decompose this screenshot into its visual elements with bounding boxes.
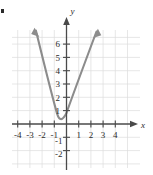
y-axis-label: y xyxy=(70,6,75,16)
y-tick-label: 6 xyxy=(56,39,61,49)
x-tick-label: -3 xyxy=(26,130,34,140)
graph-canvas: -4 -3 -2 -1 1 2 3 4 6 5 4 3 2 1 -1 -2 x … xyxy=(0,0,153,175)
grid-lines xyxy=(12,30,140,168)
x-axis-arrowhead xyxy=(130,121,138,128)
curve-left-arrowhead xyxy=(31,28,39,37)
x-tick-label: 3 xyxy=(101,130,106,140)
x-tick-label: -2 xyxy=(38,130,46,140)
y-tick-label: 3 xyxy=(56,79,61,89)
y-tick-label: 5 xyxy=(56,53,61,63)
y-tick-label: -2 xyxy=(55,149,63,159)
figure-container: -4 -3 -2 -1 1 2 3 4 6 5 4 3 2 1 -1 -2 x … xyxy=(0,0,153,175)
x-tick-label: -4 xyxy=(14,130,22,140)
y-axis-arrowhead xyxy=(63,17,70,25)
bullet-mark-icon xyxy=(1,9,4,13)
y-tick-label: 4 xyxy=(56,66,61,76)
y-tick-label: 1 xyxy=(56,106,61,116)
x-tick-label: 1 xyxy=(76,130,81,140)
y-tick-label: 2 xyxy=(56,93,61,103)
x-tick-label: 4 xyxy=(113,130,118,140)
curve-right-arrowhead xyxy=(93,29,101,38)
x-tick-label: 2 xyxy=(89,130,94,140)
y-tick-label: -1 xyxy=(55,136,63,146)
x-axis-label: x xyxy=(140,120,145,130)
